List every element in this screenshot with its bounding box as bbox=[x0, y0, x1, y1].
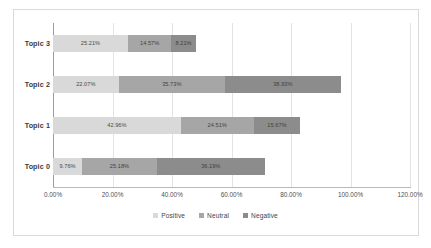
bar-segment-neutral[interactable]: 35.73% bbox=[119, 76, 225, 93]
bar-segment-value-label: 22.07% bbox=[53, 76, 119, 93]
x-axis-tick-label: 40.00% bbox=[161, 191, 183, 198]
bar-segment-positive[interactable]: 25.21% bbox=[53, 35, 128, 52]
bar-segment-positive[interactable]: 22.07% bbox=[53, 76, 119, 93]
bar-segment-value-label: 15.67% bbox=[254, 117, 301, 134]
x-axis-tick-label: 120.00% bbox=[397, 191, 422, 198]
gridline bbox=[410, 23, 411, 187]
chart-legend: PositiveNeutralNegative bbox=[0, 212, 431, 219]
legend-swatch-icon bbox=[243, 213, 248, 218]
bar-segment-neutral[interactable]: 25.18% bbox=[82, 158, 157, 175]
bar-segment-negative[interactable]: 38.93% bbox=[225, 76, 341, 93]
y-axis-category-label: Topic 1 bbox=[25, 121, 50, 130]
bar-segment-value-label: 14.57% bbox=[128, 35, 171, 52]
x-axis-tick-label: 0.00% bbox=[44, 191, 62, 198]
y-axis-category-labels: Topic 3Topic 2Topic 1Topic 0 bbox=[13, 23, 50, 187]
bar-segment-negative[interactable]: 15.67% bbox=[254, 117, 301, 134]
bar-segment-value-label: 38.93% bbox=[225, 76, 341, 93]
y-axis-category-label: Topic 0 bbox=[25, 162, 50, 171]
bar-segment-negative[interactable]: 8.21% bbox=[171, 35, 195, 52]
legend-label: Negative bbox=[251, 212, 278, 219]
legend-label: Neutral bbox=[207, 212, 229, 219]
x-axis-line bbox=[53, 187, 411, 188]
legend-swatch-icon bbox=[199, 213, 204, 218]
legend-item-negative[interactable]: Negative bbox=[243, 212, 278, 219]
legend-item-positive[interactable]: Positive bbox=[153, 212, 185, 219]
bar-segment-negative[interactable]: 36.19% bbox=[157, 158, 265, 175]
bar-segment-positive[interactable]: 42.96% bbox=[53, 117, 181, 134]
plot-area: 25.21%14.57%8.21%22.07%35.73%38.93%42.96… bbox=[53, 23, 410, 187]
legend-item-neutral[interactable]: Neutral bbox=[199, 212, 229, 219]
bar-stack[interactable]: 25.21%14.57%8.21% bbox=[53, 35, 196, 52]
bar-stack[interactable]: 42.96%24.51%15.67% bbox=[53, 117, 300, 134]
bar-segment-value-label: 25.18% bbox=[82, 158, 157, 175]
x-axis-tick-label: 20.00% bbox=[102, 191, 124, 198]
x-axis-tick-label: 100.00% bbox=[338, 191, 363, 198]
bar-stack[interactable]: 22.07%35.73%38.93% bbox=[53, 76, 341, 93]
bar-segment-value-label: 25.21% bbox=[53, 35, 128, 52]
legend-swatch-icon bbox=[153, 213, 158, 218]
bar-segment-value-label: 24.51% bbox=[181, 117, 254, 134]
bar-segment-value-label: 8.21% bbox=[171, 35, 195, 52]
legend-label: Positive bbox=[161, 212, 185, 219]
bar-segment-value-label: 42.96% bbox=[53, 117, 181, 134]
bar-segment-neutral[interactable]: 24.51% bbox=[181, 117, 254, 134]
bar-segment-value-label: 9.76% bbox=[53, 158, 82, 175]
x-axis-tick-label: 60.00% bbox=[221, 191, 243, 198]
x-axis-tick-label: 80.00% bbox=[280, 191, 302, 198]
bar-segment-value-label: 35.73% bbox=[119, 76, 225, 93]
bar-segment-value-label: 36.19% bbox=[157, 158, 265, 175]
bar-segment-neutral[interactable]: 14.57% bbox=[128, 35, 171, 52]
y-axis-category-label: Topic 2 bbox=[25, 80, 50, 89]
chart-container: Topic 3Topic 2Topic 1Topic 0 25.21%14.57… bbox=[0, 0, 431, 248]
bar-segment-positive[interactable]: 9.76% bbox=[53, 158, 82, 175]
bar-stack[interactable]: 9.76%25.18%36.19% bbox=[53, 158, 265, 175]
y-axis-category-label: Topic 3 bbox=[25, 39, 50, 48]
